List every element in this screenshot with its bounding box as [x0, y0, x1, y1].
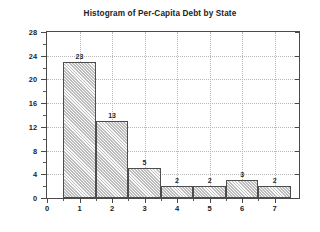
- x-tick-label: 7: [265, 204, 285, 213]
- y-axis-minor-tick: [43, 68, 46, 69]
- y-axis-tick-right: [295, 56, 299, 57]
- x-tick-label: 2: [102, 204, 122, 213]
- histogram-bar: [63, 62, 96, 198]
- y-axis-tick-right: [295, 32, 299, 33]
- x-axis-tick: [242, 199, 243, 203]
- x-axis-tick: [47, 199, 48, 203]
- y-axis-tick: [41, 198, 46, 199]
- chart-title: Histogram of Per-Capita Debt by State: [0, 9, 320, 18]
- x-axis-minor-tick: [258, 199, 259, 201]
- y-tick-label: 24: [13, 51, 37, 60]
- y-axis-tick-right: [295, 127, 299, 128]
- y-axis-tick: [41, 174, 46, 175]
- y-axis-tick-right: [295, 79, 299, 80]
- y-tick-label: 4: [13, 170, 37, 179]
- gridline-horizontal: [47, 56, 299, 57]
- x-tick-label: 4: [167, 204, 187, 213]
- y-axis-minor-tick: [43, 115, 46, 116]
- y-axis-minor-tick: [43, 162, 46, 163]
- gridline-vertical: [177, 32, 178, 198]
- histogram-bar: [161, 186, 194, 198]
- x-axis-minor-tick: [161, 199, 162, 201]
- x-axis-tick: [112, 199, 113, 203]
- y-tick-label: 12: [13, 122, 37, 131]
- y-axis-minor-tick: [43, 139, 46, 140]
- x-axis-minor-tick: [96, 199, 97, 201]
- y-axis-minor-tick: [43, 186, 46, 187]
- y-axis-minor-tick: [43, 91, 46, 92]
- histogram-bar: [193, 186, 226, 198]
- y-tick-label: 0: [13, 194, 37, 203]
- bar-value-label: 3: [240, 171, 244, 178]
- bar-value-label: 2: [273, 177, 277, 184]
- histogram-bar: [96, 121, 129, 198]
- y-axis-tick-right: [295, 103, 299, 104]
- x-tick-label: 0: [37, 204, 57, 213]
- x-axis-tick: [145, 199, 146, 203]
- x-tick-label: 1: [70, 204, 90, 213]
- x-axis-tick: [177, 199, 178, 203]
- y-axis-tick: [41, 127, 46, 128]
- y-tick-label: 28: [13, 28, 37, 37]
- y-tick-label: 8: [13, 146, 37, 155]
- y-tick-label: 16: [13, 99, 37, 108]
- y-axis-tick: [41, 32, 46, 33]
- bar-value-label: 2: [208, 177, 212, 184]
- bar-value-label: 5: [143, 159, 147, 166]
- bar-value-label: 23: [76, 53, 84, 60]
- gridline-vertical: [210, 32, 211, 198]
- x-axis-minor-tick: [128, 199, 129, 201]
- plot-area: [46, 31, 300, 199]
- y-axis-tick: [41, 56, 46, 57]
- x-tick-label: 5: [200, 204, 220, 213]
- histogram-bar: [258, 186, 291, 198]
- y-axis-tick: [41, 103, 46, 104]
- y-axis-tick-right: [295, 174, 299, 175]
- x-axis-minor-tick: [193, 199, 194, 201]
- histogram-chart: Histogram of Per-Capita Debt by State Co…: [0, 0, 320, 232]
- bar-value-label: 2: [175, 177, 179, 184]
- gridline-vertical: [275, 32, 276, 198]
- x-tick-label: 3: [135, 204, 155, 213]
- x-axis-tick: [275, 199, 276, 203]
- x-axis-minor-tick: [63, 199, 64, 201]
- x-axis-minor-tick: [226, 199, 227, 201]
- x-axis-tick: [210, 199, 211, 203]
- y-axis-minor-tick: [43, 44, 46, 45]
- x-axis-tick: [80, 199, 81, 203]
- x-tick-label: 6: [232, 204, 252, 213]
- y-axis-tick: [41, 151, 46, 152]
- y-tick-label: 20: [13, 75, 37, 84]
- bar-value-label: 13: [108, 112, 116, 119]
- y-axis-tick-right: [295, 151, 299, 152]
- y-axis-tick: [41, 79, 46, 80]
- histogram-bar: [226, 180, 259, 198]
- y-axis-tick-right: [295, 198, 299, 199]
- histogram-bar: [128, 168, 161, 198]
